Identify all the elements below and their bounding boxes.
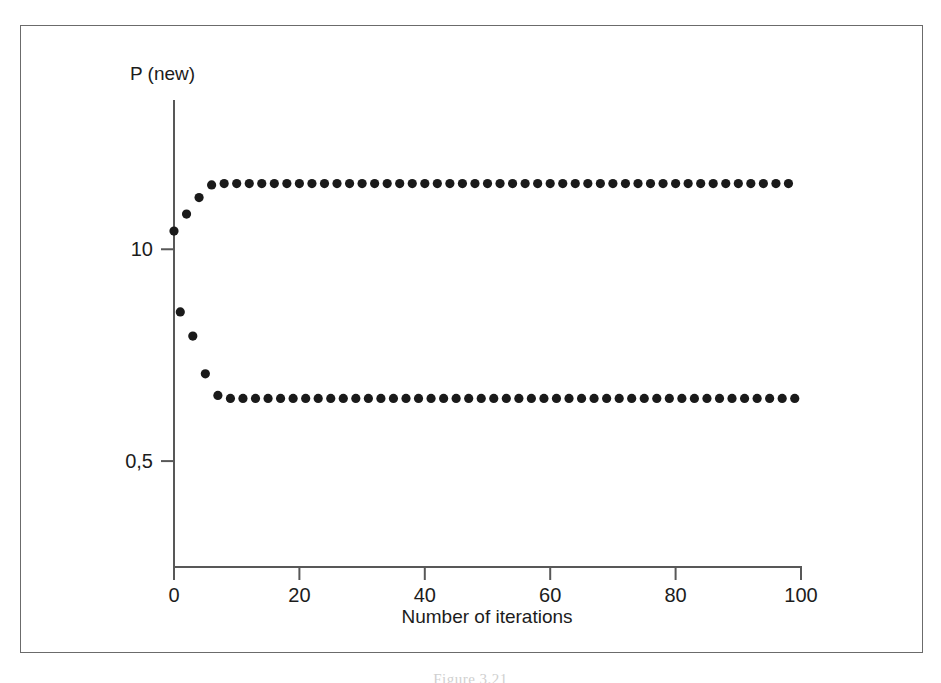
data-point (552, 394, 561, 403)
data-point (194, 193, 203, 202)
data-point (433, 179, 442, 188)
data-point (289, 394, 298, 403)
data-point (370, 179, 379, 188)
x-tick-label: 80 (664, 584, 686, 606)
data-point (307, 179, 316, 188)
data-point (251, 394, 260, 403)
data-point (589, 394, 598, 403)
data-point (439, 394, 448, 403)
x-tick-label: 40 (414, 584, 436, 606)
x-tick-label: 100 (784, 584, 817, 606)
data-point (527, 394, 536, 403)
data-point (671, 179, 680, 188)
data-point (495, 179, 504, 188)
data-point (420, 179, 429, 188)
data-point (238, 394, 247, 403)
data-point (477, 394, 486, 403)
data-point (401, 394, 410, 403)
data-point (470, 179, 479, 188)
data-point (621, 179, 630, 188)
data-point (602, 394, 611, 403)
data-point (715, 394, 724, 403)
data-point (201, 369, 210, 378)
data-point (270, 179, 279, 188)
data-point (414, 394, 423, 403)
data-point (790, 394, 799, 403)
data-point (778, 394, 787, 403)
y-axis-ticks: 100,5 (125, 238, 174, 472)
data-point (564, 394, 573, 403)
page-canvas: P (new) 100,5 020406080100 Number of ite… (0, 0, 941, 683)
data-point (483, 179, 492, 188)
data-point (702, 394, 711, 403)
y-axis-title: P (new) (130, 63, 195, 84)
data-point (646, 179, 655, 188)
data-point (652, 394, 661, 403)
x-tick-label: 60 (539, 584, 561, 606)
data-point (345, 179, 354, 188)
data-point (771, 179, 780, 188)
data-point (690, 394, 699, 403)
y-tick-label: 0,5 (125, 450, 153, 472)
data-point (608, 179, 617, 188)
x-axis-title: Number of iterations (401, 606, 572, 627)
x-tick-label: 20 (288, 584, 310, 606)
data-point (658, 179, 667, 188)
data-point (295, 179, 304, 188)
data-point (546, 179, 555, 188)
data-point (740, 394, 749, 403)
data-point (232, 179, 241, 188)
data-point (533, 179, 542, 188)
data-point (301, 394, 310, 403)
data-point (458, 179, 467, 188)
data-point (615, 394, 624, 403)
data-point (464, 394, 473, 403)
y-tick-label: 10 (131, 238, 153, 260)
figure-frame: P (new) 100,5 020406080100 Number of ite… (20, 25, 923, 653)
data-point (665, 394, 674, 403)
x-tick-label: 0 (168, 584, 179, 606)
data-point (383, 179, 392, 188)
data-point (263, 394, 272, 403)
data-point (571, 179, 580, 188)
scatter-plot: P (new) 100,5 020406080100 Number of ite… (21, 26, 921, 651)
data-point (502, 394, 511, 403)
data-point (364, 394, 373, 403)
figure-caption: Figure 3.21 (0, 668, 941, 683)
data-point (596, 179, 605, 188)
data-point (376, 394, 385, 403)
data-point (514, 394, 523, 403)
data-point (188, 332, 197, 341)
data-point (558, 179, 567, 188)
data-point (508, 179, 517, 188)
data-point (684, 179, 693, 188)
data-point (753, 394, 762, 403)
data-point (408, 179, 417, 188)
data-point (759, 179, 768, 188)
data-point (721, 179, 730, 188)
data-point (489, 394, 498, 403)
data-point (226, 394, 235, 403)
data-point (245, 179, 254, 188)
data-point (282, 179, 291, 188)
data-point (213, 391, 222, 400)
data-point (640, 394, 649, 403)
data-point (452, 394, 461, 403)
data-point (426, 394, 435, 403)
data-point (358, 179, 367, 188)
data-point (627, 394, 636, 403)
data-point (633, 179, 642, 188)
data-point (696, 179, 705, 188)
data-point (577, 394, 586, 403)
data-point (332, 179, 341, 188)
data-point (169, 226, 178, 235)
data-point (784, 179, 793, 188)
data-point-group (169, 179, 799, 403)
data-point (257, 179, 266, 188)
x-axis-ticks: 020406080100 (168, 567, 817, 606)
data-point (326, 394, 335, 403)
data-point (539, 394, 548, 403)
data-point (176, 307, 185, 316)
data-point (351, 394, 360, 403)
data-point (709, 179, 718, 188)
